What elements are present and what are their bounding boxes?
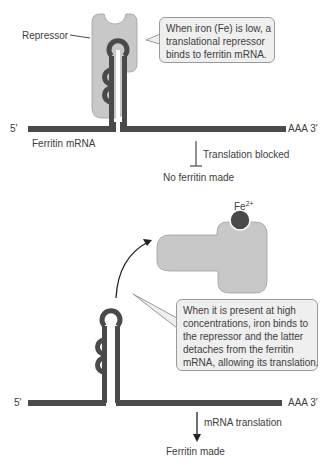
callout-line: binds to ferritin mRNA.	[166, 48, 268, 61]
callout-pointer-bottom	[133, 294, 177, 328]
callout-line: When it is present at high	[183, 304, 311, 317]
callout-line: detaches from the ferritin	[183, 343, 311, 356]
repressor-protein	[92, 14, 137, 118]
five-prime-label-top: 5′	[10, 123, 17, 135]
callout-line: mRNA, allowing its translation.	[183, 356, 311, 369]
callout-pointer-top	[146, 34, 160, 44]
iron-label: Fe2+	[234, 198, 254, 213]
mrna-strand-right-bottom	[116, 400, 282, 406]
callout-high-iron: When it is present at high concentration…	[176, 299, 318, 371]
callout-line: When iron (Fe) is low, a	[166, 22, 268, 35]
iron-symbol: Fe	[234, 201, 246, 212]
detach-arrow	[116, 242, 148, 298]
iron-charge: 2+	[246, 200, 254, 207]
translation-blocked-label: Translation blocked	[203, 149, 289, 161]
mrna-strand-left-bottom	[28, 400, 106, 406]
three-prime-label-top: AAA 3′	[288, 123, 318, 135]
callout-low-iron: When iron (Fe) is low, a translational r…	[159, 17, 275, 63]
repressor-detached	[157, 222, 267, 293]
callout-line: the repressor and the latter	[183, 330, 311, 343]
stem-loop-bottom	[98, 311, 121, 403]
five-prime-label-bottom: 5′	[14, 397, 21, 409]
no-ferritin-label: No ferritin made	[163, 172, 234, 184]
repressor-label: Repressor	[22, 30, 68, 42]
three-prime-label-bottom: AAA 3′	[288, 397, 318, 409]
detach-arrowhead	[143, 239, 152, 246]
callout-line: concentrations, iron binds to	[183, 317, 311, 330]
ferritin-made-label: Ferritin made	[166, 446, 225, 458]
repressor-pointer	[70, 35, 90, 38]
mrna-translation-label: mRNA translation	[204, 417, 282, 429]
callout-line: translational repressor	[166, 35, 268, 48]
diagram-graphics	[0, 0, 334, 467]
translation-arrowhead	[193, 434, 201, 442]
mrna-label: Ferritin mRNA	[32, 138, 95, 150]
